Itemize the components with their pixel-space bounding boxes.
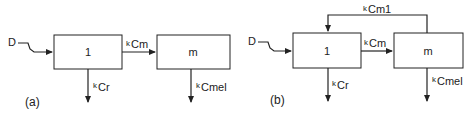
diagram-a: D 1 m k Cm k Cr k Cmel (a)	[8, 35, 230, 109]
compartment-m-label-a: m	[188, 46, 197, 58]
rate-label-return-b: Cm1	[368, 3, 391, 15]
compartment-1-label-a: 1	[85, 46, 91, 58]
rate-label-transfer-a: Cm	[131, 38, 148, 50]
compartment-1-label-b: 1	[324, 45, 330, 57]
input-label-b: D	[248, 35, 256, 47]
input-arrow-a	[18, 43, 52, 52]
rate-label-elim-1-b: Cr	[337, 79, 349, 91]
rate-label-transfer-b: Cm	[369, 37, 386, 49]
input-arrow-b	[258, 42, 291, 51]
rate-label-elim-m-b: Cmel	[437, 75, 463, 87]
diagram-b: D 1 m k Cm k Cm1 k Cr k Cmel (b)	[248, 3, 463, 107]
diagram-label-a: (a)	[25, 95, 40, 109]
diagram-label-b: (b)	[270, 93, 285, 107]
compartment-diagram: D 1 m k Cm k Cr k Cmel (a) D 1 m k Cm k …	[0, 0, 474, 116]
return-arrow-b	[328, 15, 427, 33]
rate-label-elim-m-a: Cmel	[201, 81, 227, 93]
input-label-a: D	[8, 36, 16, 48]
rate-label-elim-1-a: Cr	[98, 81, 110, 93]
compartment-m-label-b: m	[423, 45, 432, 57]
